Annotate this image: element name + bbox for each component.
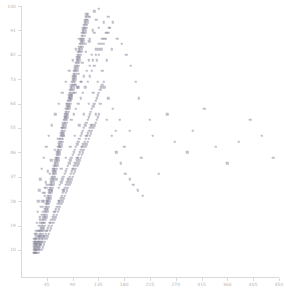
- x-tick-label: 405: [241, 282, 265, 287]
- scatter-point: [123, 146, 125, 148]
- x-tick-label: 90: [61, 282, 85, 287]
- scatter-point: [137, 189, 139, 191]
- scatter-point: [261, 135, 263, 137]
- scatter-point: [140, 157, 142, 159]
- scatter-point: [115, 151, 117, 153]
- scatter-point: [95, 18, 97, 20]
- scatter-point: [98, 8, 100, 10]
- scatter-point: [93, 10, 95, 12]
- y-tick-label: 55: [0, 125, 16, 130]
- scatter-point: [83, 75, 85, 77]
- scatter-point: [47, 135, 49, 137]
- y-tick-label: 10: [0, 247, 16, 252]
- scatter-point: [105, 37, 107, 39]
- scatter-point: [61, 92, 63, 94]
- y-tick-label: 64: [0, 101, 16, 106]
- scatter-point: [157, 173, 159, 175]
- y-tick-label: 37: [0, 174, 16, 179]
- scatter-point: [74, 135, 76, 137]
- scatter-point: [100, 48, 102, 50]
- scatter-point: [107, 16, 109, 18]
- scatter-point: [83, 113, 85, 115]
- scatter-point: [39, 178, 41, 180]
- scatter-point: [81, 62, 83, 64]
- scatter-point: [74, 92, 76, 94]
- scatter-point: [55, 178, 57, 180]
- scatter-point: [91, 59, 93, 61]
- y-tick-label: 28: [0, 199, 16, 204]
- scatter-point: [186, 151, 188, 153]
- scatter-point: [89, 16, 91, 18]
- scatter-point: [84, 86, 86, 88]
- scatter-point: [215, 146, 217, 148]
- scatter-point: [65, 157, 67, 159]
- scatter-point: [226, 162, 228, 164]
- scatter-point: [125, 54, 127, 56]
- y-tick-label: 19: [0, 223, 16, 228]
- scatter-point: [103, 86, 105, 88]
- scatter-point: [249, 119, 251, 121]
- scatter-point: [238, 140, 240, 142]
- scatter-point: [112, 21, 114, 23]
- scatter-point: [69, 146, 71, 148]
- y-tick-label: 73: [0, 77, 16, 82]
- x-tick-label: 315: [190, 282, 214, 287]
- scatter-point: [89, 75, 91, 77]
- scatter-point: [102, 21, 104, 23]
- scatter-point: [50, 159, 52, 161]
- scatter-point: [75, 108, 77, 110]
- scatter-point: [43, 157, 45, 159]
- scatter-point: [203, 108, 205, 110]
- scatter-point: [78, 73, 80, 75]
- scatter-point: [110, 135, 112, 137]
- scatter-point: [37, 200, 39, 202]
- scatter-point: [130, 64, 132, 66]
- scatter-point: [114, 129, 116, 131]
- plot-area: [21, 6, 279, 277]
- scatter-point: [118, 119, 120, 121]
- scatter-point: [106, 119, 108, 121]
- scatter-point: [99, 102, 101, 104]
- scatter-point: [152, 135, 154, 137]
- scatter-point: [98, 26, 100, 28]
- scatter-point: [73, 113, 75, 115]
- scatter-point: [102, 43, 104, 45]
- scatter-point: [137, 97, 139, 99]
- x-tick-label: 45: [35, 282, 59, 287]
- scatter-point: [58, 186, 60, 188]
- x-tick-mark: [150, 278, 151, 281]
- scatter-point: [88, 40, 90, 42]
- scatter-point: [91, 54, 93, 56]
- scatter-point: [51, 124, 53, 126]
- scatter-point: [86, 81, 88, 83]
- x-tick-mark: [227, 278, 228, 281]
- scatter-point: [89, 64, 91, 66]
- scatter-point: [120, 162, 122, 164]
- scatter-point: [149, 119, 151, 121]
- scatter-point: [79, 97, 81, 99]
- scatter-point: [121, 43, 123, 45]
- scatter-point: [272, 157, 274, 159]
- scatter-point: [101, 70, 103, 72]
- scatter-point: [82, 92, 84, 94]
- scatter-point: [78, 124, 80, 126]
- scatter-point: [58, 102, 60, 104]
- scatter-point: [87, 102, 89, 104]
- scatter-point: [87, 59, 89, 61]
- scatter-point: [97, 81, 99, 83]
- scatter-point: [71, 59, 73, 61]
- y-tick-label: 100: [0, 4, 16, 9]
- scatter-point: [93, 64, 95, 66]
- x-tick-mark: [47, 278, 48, 281]
- scatter-point: [86, 70, 88, 72]
- scatter-point: [132, 184, 134, 186]
- x-tick-label: 135: [86, 282, 110, 287]
- scatter-point: [166, 113, 168, 115]
- scatter-point: [94, 54, 96, 56]
- scatter-point: [112, 108, 114, 110]
- scatter-point: [60, 167, 62, 169]
- scatter-point: [141, 194, 143, 196]
- x-tick-label: 225: [138, 282, 162, 287]
- x-tick-label: 270: [164, 282, 188, 287]
- x-tick-label: 360: [215, 282, 239, 287]
